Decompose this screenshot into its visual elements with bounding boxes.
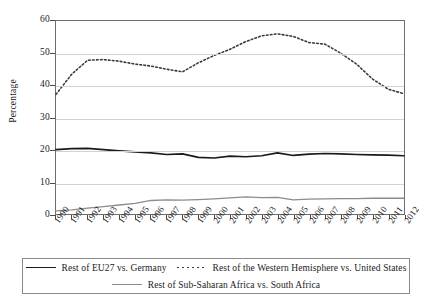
legend-swatch-line [112, 284, 142, 285]
y-tick-mark-30 [50, 118, 55, 119]
y-tick-mark-10 [50, 183, 55, 184]
y-tick-label-30: 30 [26, 113, 50, 123]
legend-entry-1-0: Rest of Sub-Saharan Africa vs. South Afr… [112, 280, 320, 290]
gridline-40 [56, 86, 404, 87]
legend-label: Rest of EU27 vs. Germany [62, 263, 167, 273]
y-tick-label-50: 50 [26, 48, 50, 58]
y-tick-label-60: 60 [26, 15, 50, 25]
x-axis-tick-labels: 1990199119921993199419951996199719981999… [55, 220, 405, 254]
y-tick-label-10: 10 [26, 178, 50, 188]
y-tick-label-20: 20 [26, 145, 50, 155]
series-container [56, 21, 404, 214]
y-tick-mark-40 [50, 85, 55, 86]
legend-swatch-line [177, 267, 207, 269]
legend-label: Rest of Sub-Saharan Africa vs. South Afr… [148, 280, 320, 290]
gridline-30 [56, 119, 404, 120]
y-tick-mark-0 [50, 215, 55, 216]
legend-row-1: Rest of Sub-Saharan Africa vs. South Afr… [23, 276, 409, 293]
plot-area [55, 20, 405, 215]
gridline-10 [56, 184, 404, 185]
legend-entry-0-0: Rest of EU27 vs. Germany [26, 263, 167, 273]
legend-label: Rest of the Western Hemisphere vs. Unite… [213, 263, 407, 273]
chart-legend: Rest of EU27 vs. GermanyRest of the West… [22, 258, 410, 294]
y-axis-tick-labels: 0102030405060 [22, 20, 50, 215]
legend-swatch-solid-icon [26, 264, 56, 272]
y-tick-mark-50 [50, 53, 55, 54]
x-tick-label-2012: 2012 [403, 205, 421, 225]
gridline-20 [56, 151, 404, 152]
legend-swatch-dotted-icon [177, 264, 207, 272]
y-tick-mark-60 [50, 20, 55, 21]
legend-row-0: Rest of EU27 vs. GermanyRest of the West… [23, 259, 409, 276]
legend-swatch-line [26, 267, 56, 269]
gridline-50 [56, 54, 404, 55]
y-tick-mark-20 [50, 150, 55, 151]
y-tick-label-40: 40 [26, 80, 50, 90]
legend-entry-0-1: Rest of the Western Hemisphere vs. Unite… [177, 263, 407, 273]
series-line-0 [56, 148, 404, 158]
chart-figure: Percentage 0102030405060 199019911992199… [0, 0, 431, 301]
legend-swatch-solid-icon [112, 281, 142, 289]
y-tick-label-0: 0 [26, 210, 50, 220]
y-axis-title: Percentage [8, 66, 18, 136]
